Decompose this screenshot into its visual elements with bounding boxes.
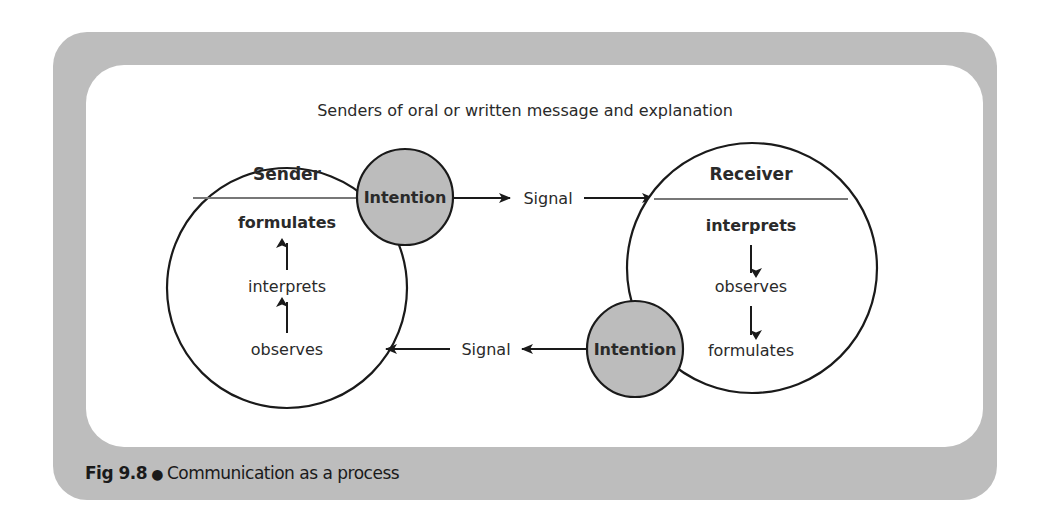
sender-intention-label: Intention [364, 188, 447, 207]
sender-step-interprets: interprets [248, 277, 326, 296]
receiver-step-interprets: interprets [706, 216, 797, 235]
sender-step-formulates: formulates [238, 213, 336, 232]
diagram-title: Senders of oral or written message and e… [317, 101, 733, 120]
receiver-label: Receiver [709, 164, 793, 184]
communication-process-diagram: Senders of oral or written message and e… [0, 0, 1047, 521]
receiver-step-formulates: formulates [708, 341, 794, 360]
figure-caption: Fig 9.8●Communication as a process [85, 463, 399, 483]
caption-text: Communication as a process [167, 463, 399, 483]
receiver-intention-label: Intention [594, 340, 677, 359]
receiver-intention-node: Intention [587, 301, 683, 397]
sender-label: Sender [253, 164, 322, 184]
sender-step-observes: observes [251, 340, 323, 359]
sender-intention-node: Intention [357, 149, 453, 245]
signal-label-bottom: Signal [461, 340, 510, 359]
signal-label-top: Signal [523, 189, 572, 208]
bullet-icon: ● [151, 466, 163, 482]
receiver-step-observes: observes [715, 277, 787, 296]
figure-number: Fig 9.8 [85, 463, 147, 483]
